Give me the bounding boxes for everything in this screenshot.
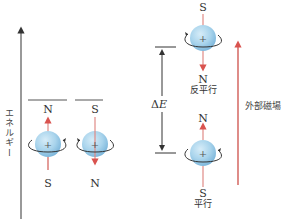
energy-axis-label: エネルギー [3,108,16,158]
svg-text:+: + [199,148,207,159]
energy-symbol: E [159,98,167,111]
spin-antiparallel: + [185,14,222,68]
parallel-top-label: N [198,113,208,124]
delta-symbol: Δ [151,98,159,111]
spin1-top-label: N [43,104,53,115]
antiparallel-bottom-label: N [198,74,208,85]
parallel-name: 平行 [194,199,212,209]
spin2-bottom-label: N [90,178,100,189]
svg-text:+: + [44,139,52,150]
spin2-top-label: S [91,104,99,115]
parallel-bottom-label: S [199,188,207,199]
svg-text:+: + [91,139,99,150]
svg-text:+: + [199,33,207,44]
energy-gap-label: ΔE [151,98,167,111]
antiparallel-name: 反平行 [190,85,217,95]
spin-sphere-up: + [29,120,66,170]
antiparallel-top-label: S [199,2,207,13]
external-field-label: 外部磁場 [245,99,281,112]
spin1-bottom-label: S [44,178,52,189]
spin-parallel: + [185,126,222,187]
spin-sphere-down: + [77,117,114,162]
